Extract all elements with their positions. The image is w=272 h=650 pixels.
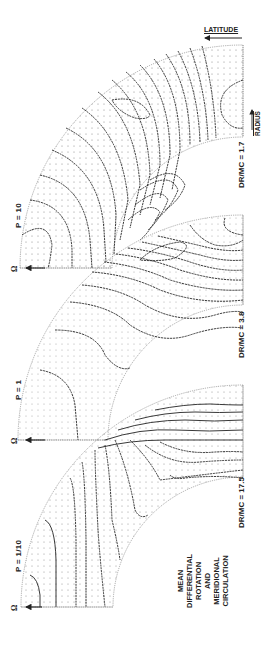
radius-axis-label: RADIUS <box>254 111 261 136</box>
figure-canvas: Ω Ω <box>0 0 272 650</box>
panel-p1-label: P = 1 <box>14 380 23 400</box>
caption-line: DIFFERENTIAL <box>185 554 194 608</box>
svg-text:Ω: Ω <box>10 265 19 272</box>
caption-line: AND <box>203 554 212 608</box>
caption-line: ROTATION <box>194 554 203 608</box>
caption-line: MEAN <box>176 554 185 608</box>
svg-text:Ω: Ω <box>10 437 19 444</box>
panel-p1-10-drmc-label: DR/MC = 17.5 <box>237 477 246 528</box>
panel-p10-drmc-label: DR/MC = 1.7 <box>237 142 246 188</box>
caption-line: CIRCULATION <box>221 554 230 608</box>
figure-caption: MEAN DIFFERENTIAL ROTATION AND MERIDIONA… <box>176 554 230 608</box>
svg-text:Ω: Ω <box>10 604 19 611</box>
panel-p1-drmc-label: DR/MC = 3.8 <box>237 312 246 358</box>
caption-line: MERIDIONAL <box>212 554 221 608</box>
panel-p1-10-label: P = 1/10 <box>14 540 23 572</box>
latitude-axis-label: LATITUDE <box>204 26 238 33</box>
panel-p10-label: P = 10 <box>14 203 23 228</box>
